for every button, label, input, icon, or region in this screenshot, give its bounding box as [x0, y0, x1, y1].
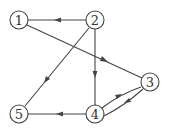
- arrow-4-5: [56, 112, 63, 117]
- edge-2-5: [25, 28, 89, 106]
- arrow-3-4: [124, 98, 131, 103]
- node-label: 3: [146, 75, 154, 90]
- graph-canvas: 1 2 3 4 5: [0, 0, 169, 139]
- node-5: 5: [10, 105, 28, 123]
- node-label: 5: [15, 107, 23, 122]
- arrow-2-1: [54, 18, 61, 23]
- node-3: 3: [141, 73, 159, 91]
- arrow-2-4: [93, 71, 98, 78]
- arrow-1-3: [100, 56, 108, 62]
- node-label: 2: [91, 13, 99, 28]
- node-label: 4: [91, 107, 99, 122]
- node-1: 1: [10, 11, 28, 29]
- node-4: 4: [86, 105, 104, 123]
- node-2: 2: [86, 11, 104, 29]
- edge-4-3: [102, 87, 141, 108]
- node-label: 1: [15, 13, 23, 28]
